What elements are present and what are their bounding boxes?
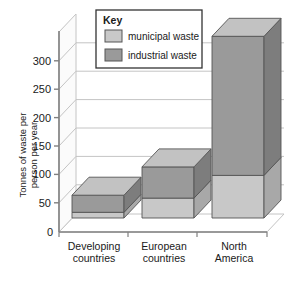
y-tick-label-0: 0 — [47, 226, 53, 238]
x-axis-category-labels: Developing countries European countries … — [68, 240, 254, 264]
bar-3-industrial-front[interactable] — [212, 36, 264, 175]
bar-2-industrial-front[interactable] — [142, 167, 194, 198]
bar-1-industrial-front[interactable] — [72, 195, 124, 212]
legend-label-municipal-waste: municipal waste — [128, 31, 200, 42]
bar-group-north-america[interactable] — [212, 18, 281, 218]
bar-1-municipal-front[interactable] — [72, 212, 124, 218]
y-tick-label-50: 50 — [39, 197, 51, 209]
cat-label-north-america-line-2: America — [215, 252, 254, 264]
bar-3-municipal-front[interactable] — [212, 175, 264, 218]
bar-2-municipal-front[interactable] — [142, 198, 194, 218]
cat-label-european-line-1: European — [141, 240, 187, 252]
y-tick-label-250: 250 — [33, 83, 51, 95]
bar-group-european-countries[interactable] — [142, 149, 211, 218]
chart-figure: 300 250 200 150 100 50 0 Tonnes of waste… — [0, 0, 299, 281]
cat-label-north-america-line-1: North — [221, 240, 247, 252]
cat-label-developing-line-2: countries — [73, 252, 116, 264]
legend-swatch-industrial-waste — [105, 49, 122, 61]
cat-label-european-line-2: countries — [143, 252, 186, 264]
cat-label-developing-line-1: Developing — [68, 240, 121, 252]
y-axis-title-line-2: person per year — [28, 122, 39, 189]
waste-per-person-3d-bar-chart: 300 250 200 150 100 50 0 Tonnes of waste… — [0, 0, 299, 281]
x-axis — [59, 232, 267, 237]
legend-key-box: Key municipal waste industrial waste — [96, 10, 202, 68]
legend-title: Key — [103, 14, 122, 26]
bar-3-industrial-side[interactable] — [264, 18, 281, 175]
legend-swatch-municipal-waste — [105, 30, 122, 42]
y-axis-title-line-1: Tonnes of waste per — [17, 112, 28, 197]
y-axis-title: Tonnes of waste per person per year — [17, 112, 39, 197]
legend-label-industrial-waste: industrial waste — [128, 50, 197, 61]
y-tick-label-300: 300 — [33, 55, 51, 67]
